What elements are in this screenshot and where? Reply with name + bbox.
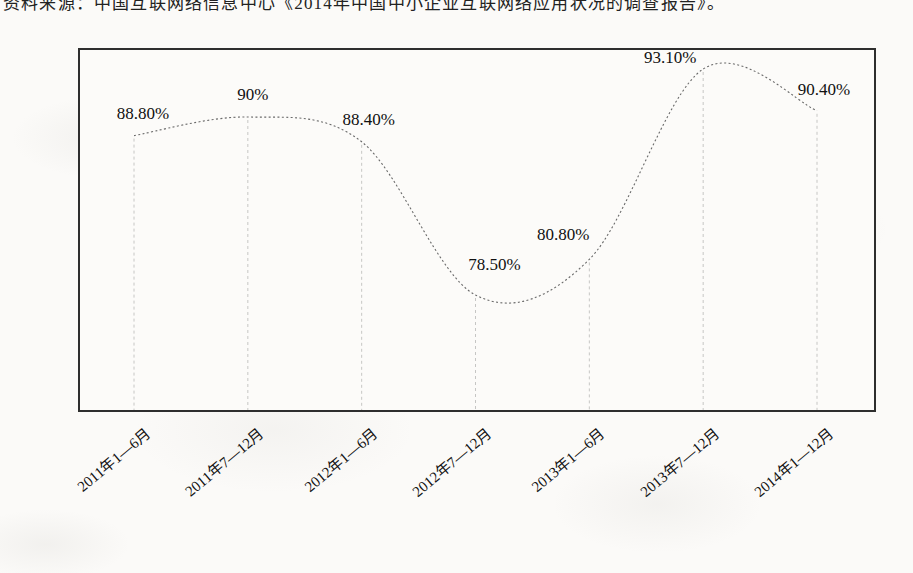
chart-frame: 88.80%90%88.40%78.50%80.80%93.10%90.40%: [78, 48, 876, 412]
x-axis-label-row: 2011年1—6月2011年7—12月2012年1—6月2012年7—12月20…: [80, 412, 874, 557]
x-axis-label: 2011年1—6月: [71, 422, 153, 496]
line-chart-plot: [80, 50, 874, 410]
data-label: 90.40%: [798, 80, 850, 100]
x-axis-label: 2014年1—12月: [748, 422, 836, 501]
data-label: 80.80%: [537, 225, 589, 245]
x-axis-label: 2012年7—12月: [407, 422, 495, 501]
source-note-clipped-text: 资料来源：中国互联网络信息中心《2014年中国中小企业互联网络应用状况的调查报告…: [3, 0, 725, 14]
data-label: 78.50%: [468, 255, 520, 275]
x-axis-label: 2012年1—6月: [299, 422, 381, 496]
data-label: 88.40%: [342, 110, 394, 130]
data-label: 88.80%: [117, 104, 169, 124]
x-axis-label: 2013年1—6月: [526, 422, 608, 496]
data-label: 93.10%: [644, 48, 696, 68]
data-label: 90%: [237, 85, 268, 105]
x-axis-label: 2013年7—12月: [634, 422, 722, 501]
x-axis-label: 2011年7—12月: [180, 422, 268, 500]
